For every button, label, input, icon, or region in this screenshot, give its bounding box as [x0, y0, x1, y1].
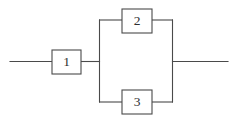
- reliability-block-diagram: 1 2 3: [0, 0, 235, 119]
- block-2-label: 2: [134, 13, 141, 28]
- block-1-label: 1: [63, 54, 70, 69]
- block-1[interactable]: 1: [52, 50, 81, 74]
- block-3[interactable]: 3: [122, 90, 152, 114]
- block-3-label: 3: [134, 94, 141, 109]
- wire-group: [10, 20, 228, 102]
- block-2[interactable]: 2: [122, 9, 152, 33]
- diagram-canvas: 1 2 3: [0, 0, 235, 119]
